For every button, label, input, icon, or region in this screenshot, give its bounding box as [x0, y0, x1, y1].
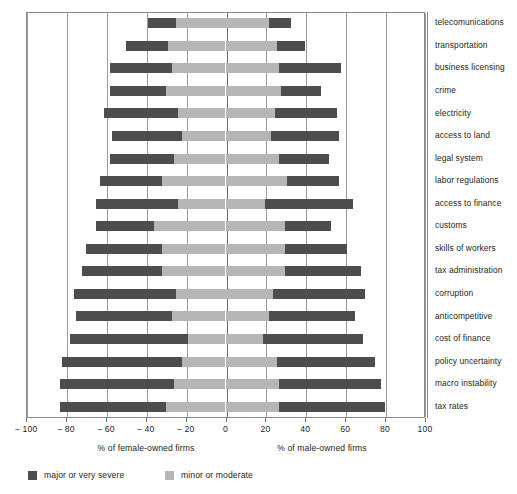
x-tick-label: 20 [260, 424, 270, 434]
bar-row [26, 147, 425, 170]
bar-segment [162, 266, 226, 276]
x-axis-title-left: % of female-owned firms [98, 443, 195, 453]
bar-segment [287, 176, 339, 186]
x-tick [66, 418, 67, 422]
gridline [425, 13, 426, 417]
x-tick [186, 418, 187, 422]
bar-row [26, 170, 425, 193]
bar-segment [96, 199, 178, 209]
diverging-bar-chart: telecomunicationstransportationbusiness … [0, 0, 517, 494]
bar-segment [226, 357, 278, 367]
category-label: legal system [435, 154, 483, 163]
bar-segment [176, 289, 226, 299]
bar-row [26, 192, 425, 215]
category-label: tax administration [435, 266, 502, 275]
bar-segment [62, 357, 182, 367]
bar-segment [226, 154, 280, 164]
category-label: cost of finance [435, 334, 491, 343]
x-tick [106, 418, 107, 422]
x-tick-label: − 100 [15, 424, 38, 434]
bar-segment [279, 63, 341, 73]
bar-segment [110, 63, 172, 73]
bar-segment [226, 311, 270, 321]
bar-segment [86, 244, 162, 254]
bar-segment [176, 18, 226, 28]
legend-swatch [28, 471, 37, 480]
bar-segment [226, 41, 278, 51]
category-label: macro instability [435, 379, 497, 388]
bar-segment [76, 311, 172, 321]
x-axis: − 100− 80− 60− 40− 20020406080100 [26, 418, 425, 419]
bar-segment [226, 266, 286, 276]
bar-rows [26, 12, 425, 418]
x-tick-label: 80 [380, 424, 390, 434]
bar-row [26, 373, 425, 396]
category-axis: telecomunicationstransportationbusiness … [427, 12, 517, 418]
bar-segment [277, 41, 305, 51]
category-label: anticompetitive [435, 312, 492, 321]
bar-segment [226, 18, 270, 28]
x-axis-title-right: % of male-owned firms [277, 443, 367, 453]
bar-segment [226, 221, 286, 231]
bar-segment [162, 176, 226, 186]
bar-segment [226, 379, 280, 389]
bar-segment [265, 199, 353, 209]
bar-segment [273, 289, 365, 299]
bar-segment [104, 108, 178, 118]
x-tick [26, 418, 27, 422]
bar-segment [226, 63, 280, 73]
bar-segment [172, 63, 226, 73]
x-tick-label: 40 [300, 424, 310, 434]
bar-segment [162, 244, 226, 254]
bar-segment [226, 334, 264, 344]
bar-segment [285, 221, 331, 231]
bar-segment [178, 199, 226, 209]
bar-segment [226, 244, 286, 254]
bar-segment [182, 131, 226, 141]
bar-row [26, 35, 425, 58]
x-tick [146, 418, 147, 422]
category-label: customs [435, 221, 467, 230]
legend-item: major or very severe [28, 470, 124, 480]
bar-segment [70, 334, 188, 344]
bar-row [26, 305, 425, 328]
bar-segment [126, 41, 168, 51]
bar-segment [166, 402, 226, 412]
bar-row [26, 350, 425, 373]
bar-row [26, 328, 425, 351]
bar-segment [174, 154, 226, 164]
legend-swatch [165, 471, 174, 480]
bar-segment [188, 334, 226, 344]
bar-segment [178, 108, 226, 118]
bar-segment [285, 244, 347, 254]
category-label: transportation [435, 41, 488, 50]
bar-segment [100, 176, 162, 186]
bar-segment [226, 176, 288, 186]
bar-row [26, 238, 425, 261]
bar-row [26, 215, 425, 238]
bar-segment [275, 108, 337, 118]
x-tick [425, 418, 426, 422]
category-label: skills of workers [435, 244, 496, 253]
bar-segment [269, 18, 291, 28]
bar-segment [226, 86, 282, 96]
bar-row [26, 283, 425, 306]
bar-row [26, 125, 425, 148]
category-label: tax rates [435, 402, 468, 411]
bar-segment [279, 154, 329, 164]
x-tick [305, 418, 306, 422]
bar-segment [110, 154, 174, 164]
x-tick [265, 418, 266, 422]
x-tick [226, 418, 227, 422]
bar-segment [226, 108, 276, 118]
bar-segment [226, 131, 272, 141]
bar-segment [226, 289, 274, 299]
x-tick-label: 60 [340, 424, 350, 434]
bar-row [26, 260, 425, 283]
bar-segment [82, 266, 162, 276]
bar-segment [168, 41, 226, 51]
category-label: electricity [435, 109, 471, 118]
x-tick-label: − 80 [57, 424, 75, 434]
bar-row [26, 57, 425, 80]
category-label: business licensing [435, 63, 505, 72]
